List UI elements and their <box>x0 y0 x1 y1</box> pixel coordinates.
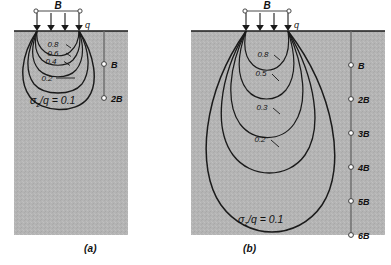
depth-tick-label-b-1: B <box>358 61 365 71</box>
isobar-label-b-0.3: 0.3 <box>256 103 268 112</box>
panel-b: B q <box>185 0 391 265</box>
isobar-formula-b-rest: /q = 0.1 <box>247 213 283 225</box>
isobar-label-b-0.8: 0.8 <box>257 50 269 59</box>
load-arrowheads-a <box>33 25 83 31</box>
depth-tick-label-b-4: 4B <box>357 163 370 173</box>
load-pressure-label-a: q <box>85 20 90 30</box>
panel-b-drawing: B q <box>185 0 391 265</box>
panel-caption-a: (a) <box>84 243 97 254</box>
isobar-label-a-0.2: 0.2 <box>41 74 53 83</box>
footing-width-label-b: B <box>263 0 270 11</box>
isobar-label-b-0.2: 0.2 <box>254 135 266 144</box>
isobar-formula-a-rest: /q = 0.1 <box>39 94 75 106</box>
panel-a: B q B 2B <box>0 0 170 265</box>
isobar-label-a-0.4: 0.4 <box>45 57 57 66</box>
load-arrowheads-b <box>242 25 292 31</box>
depth-tick-label-b-3: 3B <box>358 129 370 139</box>
depth-tick-label-b-2: 2B <box>357 95 370 105</box>
load-arrows-b <box>246 13 288 26</box>
footing-width-label-a: B <box>54 0 61 11</box>
pressure-bulb-figure: B q B 2B <box>0 0 391 265</box>
depth-tick-label-a-2: 2B <box>110 94 123 104</box>
load-pressure-label-b: q <box>294 20 299 30</box>
depth-tick-label-b-6: 6B <box>358 231 370 241</box>
panel-caption-b: (b) <box>243 243 256 254</box>
depth-tick-label-b-5: 5B <box>358 197 370 207</box>
depth-tick-label-a-1: B <box>111 60 118 70</box>
panel-a-drawing: B q B 2B <box>0 0 170 265</box>
isobar-label-b-0.5: 0.5 <box>255 69 267 78</box>
load-arrows-a <box>37 13 79 26</box>
